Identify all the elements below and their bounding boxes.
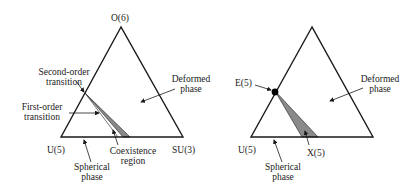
label-e5: E(5): [235, 78, 252, 88]
label-x5: X(5): [307, 148, 325, 158]
label-deformed-left: Deformedphase: [166, 74, 216, 94]
phase-diagrams: O(6) U(5) SU(3) Second-ordertransition F…: [0, 0, 418, 194]
e5-point: [272, 89, 279, 96]
vertex-o6: O(6): [111, 13, 129, 23]
vertex-u5-right: U(5): [238, 145, 256, 155]
label-spherical-right: Sphericalphase: [258, 162, 308, 182]
vertex-su3: SU(3): [172, 145, 195, 155]
arrow-spherical: [84, 140, 91, 162]
vertex-u5-left: U(5): [47, 145, 65, 155]
arrow-e5: [255, 85, 271, 90]
label-deformed-right: Deformedphase: [355, 74, 405, 94]
label-first-order: First-ordertransition: [14, 102, 70, 122]
diagram-graphics: [0, 0, 418, 194]
label-second-order: Second-ordertransition: [34, 67, 94, 87]
x5-region: [275, 91, 318, 137]
left-triangle: [61, 27, 183, 162]
right-triangle: [251, 27, 373, 162]
label-coexistence: Coexistenceregion: [107, 146, 159, 166]
arrow-spherical-right: [274, 140, 282, 162]
coexistence-region: [85, 93, 130, 137]
